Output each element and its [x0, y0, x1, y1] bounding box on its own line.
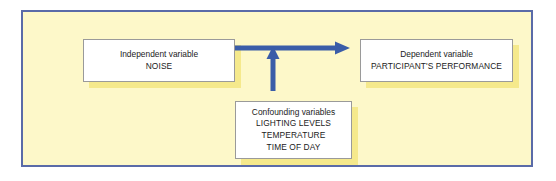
independent-variable-title: Independent variable — [120, 49, 198, 61]
confounding-variable-lighting: LIGHTING LEVELS — [256, 118, 331, 130]
diagram-frame: Independent variable NOISE Dependent var… — [21, 10, 533, 167]
independent-variable-value: NOISE — [146, 61, 173, 73]
dependent-variable-value: PARTICIPANT'S PERFORMANCE — [371, 61, 502, 73]
confounding-variable-temperature: TEMPERATURE — [262, 130, 326, 142]
node-independent-variable: Independent variable NOISE — [83, 39, 235, 82]
dependent-variable-title: Dependent variable — [400, 49, 473, 61]
node-confounding-variables: Confounding variables LIGHTING LEVELS TE… — [235, 101, 352, 159]
confounding-variable-time-of-day: TIME OF DAY — [267, 142, 321, 154]
diagram-canvas: Independent variable NOISE Dependent var… — [0, 0, 556, 181]
confounding-variables-title: Confounding variables — [252, 107, 335, 119]
arrow-confounding-to-relationship — [267, 46, 280, 91]
node-dependent-variable: Dependent variable PARTICIPANT'S PERFORM… — [360, 39, 513, 82]
